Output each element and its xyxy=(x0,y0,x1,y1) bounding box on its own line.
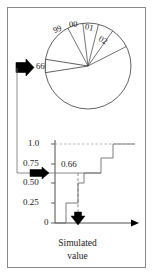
x-axis-label-line2: value xyxy=(0,251,155,261)
wheel-pointer-arrow xyxy=(16,59,34,76)
cdf-axes xyxy=(51,140,139,226)
y-tick-label-050: 0.50 xyxy=(23,177,39,187)
x-axis-arrowhead xyxy=(131,220,139,227)
x-axis-label-line1: Simulated xyxy=(0,238,155,248)
y-tick-label-0: 0 xyxy=(44,217,49,227)
wheel-pointer-glyph xyxy=(16,59,34,76)
wheel-label-66: 66 xyxy=(36,61,45,71)
y-tick-label-1: 1.0 xyxy=(28,138,39,148)
y-tick-label-075: 0.75 xyxy=(23,158,39,168)
cdf-level-annotation: 0.66 xyxy=(61,159,77,169)
y-tick-label-025: 0.25 xyxy=(23,197,39,207)
wheel-label-00: 00 xyxy=(69,19,78,30)
probability-wheel xyxy=(45,23,131,109)
cdf-step-curve xyxy=(55,144,135,223)
figure-panel: 99 00 01 02 66 1.0 0.75 0.50 0.25 0 0.66… xyxy=(0,0,155,280)
